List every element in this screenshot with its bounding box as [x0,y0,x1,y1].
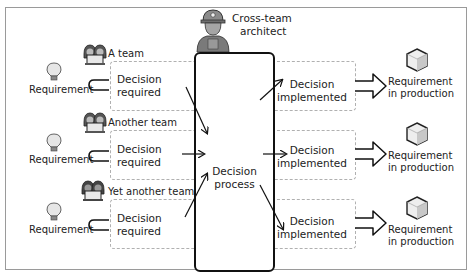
cube-box-icon [406,48,428,72]
decision-implemented-line2: implemented [276,91,348,104]
decision-implemented-line2: implemented [276,228,348,241]
result-line2: in production [388,162,450,174]
decision-implemented-line1: Decision [276,215,348,228]
cube-box-icon [406,122,428,146]
result-label: Requirement in production [388,76,450,100]
hollow-arrow-icon [354,140,388,168]
result-label: Requirement in production [388,224,450,248]
decision-implemented-text: Decision implemented [276,144,348,170]
result-line2: in production [388,88,450,100]
result-line1: Requirement [388,224,450,236]
result-label: Requirement in production [388,150,450,174]
decision-implemented-line2: implemented [276,157,348,170]
decision-implemented-text: Decision implemented [276,215,348,241]
hollow-arrow-icon [354,72,388,100]
result-line2: in production [388,236,450,248]
decision-implemented-line1: Decision [276,78,348,91]
decision-implemented-line1: Decision [276,144,348,157]
hollow-arrow-icon [354,209,388,237]
result-line1: Requirement [388,76,450,88]
result-line1: Requirement [388,150,450,162]
cube-box-icon [406,196,428,220]
decision-implemented-text: Decision implemented [276,78,348,104]
